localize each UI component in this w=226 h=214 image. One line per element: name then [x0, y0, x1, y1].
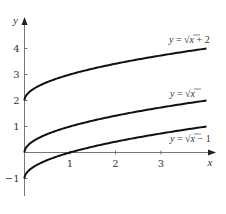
curve-label-1: y = √x + 2 [168, 34, 210, 45]
y-tick-label: 3 [13, 69, 19, 80]
x-tick-label: 2 [112, 158, 118, 169]
y-tick-label: 4 [13, 43, 19, 54]
x-tick-label: 1 [67, 158, 73, 169]
curve-label-2: y = √x [169, 88, 196, 99]
y-tick-label: −1 [5, 173, 20, 184]
curve-2 [25, 101, 207, 153]
y-tick-label: 2 [13, 95, 19, 106]
y-axis-arrow-icon [22, 17, 28, 25]
curve-label-3: y = √x − 1 [169, 133, 211, 144]
sqrt-transformations-chart: xy 123−11234 y = √x + 2y = √xy = √x − 1 [0, 0, 226, 214]
y-tick-label: 1 [13, 121, 19, 132]
ticks: 123−11234 [5, 43, 164, 184]
x-tick-label: 3 [158, 158, 164, 169]
x-axis-label: x [207, 156, 213, 168]
y-axis-label: y [12, 14, 18, 26]
